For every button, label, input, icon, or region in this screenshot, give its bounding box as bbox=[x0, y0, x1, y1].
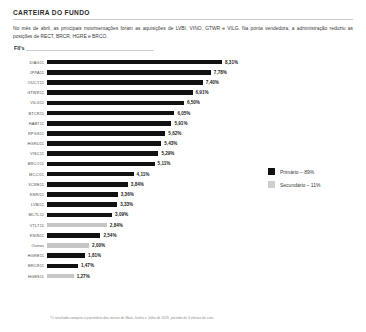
chart-bar-value: 3,09% bbox=[115, 212, 128, 217]
chart-row: LVBI113,33% bbox=[13, 200, 263, 210]
page-title: CARTEIRA DO FUNDO bbox=[13, 9, 90, 16]
chart-bar bbox=[47, 172, 134, 177]
chart-bar-value: 3,84% bbox=[131, 182, 144, 187]
chart-bar bbox=[47, 151, 158, 156]
chart-bar-area: 2,54% bbox=[47, 230, 263, 240]
chart-row-label: KNIN11 bbox=[13, 233, 47, 238]
chart-bar-area: 5,43% bbox=[47, 139, 263, 149]
chart-legend: Primário – 89% Secundário – 11% bbox=[268, 168, 356, 194]
portfolio-commentary: No mês de abril, as principais movimenta… bbox=[13, 25, 353, 41]
legend-swatch-primario bbox=[268, 168, 275, 175]
chart-bar-value: 1,27% bbox=[77, 274, 90, 279]
chart-row: VTLT112,84% bbox=[13, 220, 263, 230]
chart-bar-area: 4,11% bbox=[47, 169, 263, 179]
legend-label-secundario: Secundário – 11% bbox=[280, 182, 321, 188]
chart-bar-area: 1,81% bbox=[47, 251, 263, 261]
chart-bar bbox=[47, 243, 89, 248]
chart-bar-value: 3,36% bbox=[121, 192, 134, 197]
chart-row: VISC115,29% bbox=[13, 149, 263, 159]
chart-row: HGRU115,43% bbox=[13, 139, 263, 149]
chart-bar-area: 7,40% bbox=[47, 77, 263, 87]
chart-bar-area: 2,84% bbox=[47, 220, 263, 230]
chart-bar-area: 6,05% bbox=[47, 108, 263, 118]
chart-bar-value: 5,91% bbox=[174, 121, 187, 126]
chart-heading: FII's bbox=[14, 45, 24, 51]
chart-bar-value: 6,50% bbox=[187, 100, 200, 105]
chart-bar-value: 4,11% bbox=[137, 172, 150, 177]
chart-bar bbox=[47, 101, 184, 106]
chart-bar-value: 6,91% bbox=[196, 90, 209, 95]
chart-row: MCTL113,09% bbox=[13, 210, 263, 220]
report-page: CARTEIRA DO FUNDO No mês de abril, as pr… bbox=[0, 0, 366, 332]
chart-heading-divider bbox=[26, 50, 154, 51]
chart-bar-value: 1,47% bbox=[81, 263, 94, 268]
chart-bar-area: 5,91% bbox=[47, 118, 263, 128]
chart-row: JPPA117,78% bbox=[13, 67, 263, 77]
chart-row-label: VTLT11 bbox=[13, 223, 47, 228]
footnote: *O resultado computa o patrimônio dos me… bbox=[50, 316, 330, 321]
chart-row: HGBS111,27% bbox=[13, 271, 263, 281]
chart-bar bbox=[47, 60, 222, 65]
chart-bar-area: 3,09% bbox=[47, 210, 263, 220]
chart-row: BRCO115,11% bbox=[13, 159, 263, 169]
chart-row-label: Outros bbox=[13, 243, 47, 248]
chart-bar-area: 3,33% bbox=[47, 200, 263, 210]
legend-item-secundario: Secundário – 11% bbox=[268, 181, 356, 188]
chart-row-label: JPPA11 bbox=[13, 70, 47, 75]
chart-bar bbox=[47, 182, 128, 187]
chart-bar-area: 5,29% bbox=[47, 149, 263, 159]
chart-bar-area: 8,31% bbox=[47, 57, 263, 67]
chart-bar bbox=[47, 162, 155, 167]
chart-bar bbox=[47, 253, 85, 258]
chart-row-label: HABT11 bbox=[13, 121, 47, 126]
chart-bar-value: 3,33% bbox=[120, 202, 133, 207]
legend-label-primario: Primário – 89% bbox=[280, 169, 314, 175]
legend-item-primario: Primário – 89% bbox=[268, 168, 356, 175]
chart-row: OUCY117,40% bbox=[13, 77, 263, 87]
chart-row: VILG116,50% bbox=[13, 98, 263, 108]
chart-bar bbox=[47, 80, 203, 85]
chart-bar bbox=[47, 233, 100, 238]
chart-row: RPGS115,62% bbox=[13, 128, 263, 138]
chart-bar-value: 7,78% bbox=[214, 70, 227, 75]
chart-bar bbox=[47, 264, 78, 269]
chart-bar-value: 2,84% bbox=[110, 223, 123, 228]
chart-row-label: HGRE11 bbox=[13, 253, 47, 258]
chart-row-label: HGBS11 bbox=[13, 274, 47, 279]
chart-row-label: OUCY11 bbox=[13, 80, 47, 85]
chart-bar-value: 5,29% bbox=[161, 151, 174, 156]
chart-row-label: KNRI11 bbox=[13, 192, 47, 197]
chart-row-label: RPGS11 bbox=[13, 131, 47, 136]
chart-bar bbox=[47, 90, 193, 95]
chart-row: BTCR116,05% bbox=[13, 108, 263, 118]
chart-bar bbox=[47, 111, 174, 116]
chart-bar bbox=[47, 213, 112, 218]
chart-bar-value: 5,43% bbox=[164, 141, 177, 146]
chart-row-label: LVBI11 bbox=[13, 202, 47, 207]
chart-row: HABT115,91% bbox=[13, 118, 263, 128]
chart-row-label: VISC11 bbox=[13, 151, 47, 156]
chart-bar bbox=[47, 131, 165, 136]
chart-row-label: DIAG11 bbox=[13, 60, 47, 65]
chart-row: Outros2,00% bbox=[13, 240, 263, 250]
fii-allocation-chart: DIAG118,31%JPPA117,78%OUCY117,40%GTWR116… bbox=[13, 57, 263, 312]
chart-row-label: MCTL11 bbox=[13, 212, 47, 217]
chart-bar bbox=[47, 274, 74, 279]
chart-row-label: GTWR11 bbox=[13, 90, 47, 95]
chart-bar-value: 2,00% bbox=[92, 243, 105, 248]
chart-bar-value: 1,81% bbox=[88, 253, 101, 258]
chart-bar-area: 5,62% bbox=[47, 128, 263, 138]
chart-row: HGRE111,81% bbox=[13, 251, 263, 261]
chart-bar bbox=[47, 70, 211, 75]
chart-bar-area: 6,50% bbox=[47, 98, 263, 108]
chart-row-label: XCRE11 bbox=[13, 182, 47, 187]
chart-bar bbox=[47, 223, 107, 228]
chart-bar-area: 7,78% bbox=[47, 67, 263, 77]
chart-bar bbox=[47, 202, 117, 207]
chart-bar-value: 5,11% bbox=[158, 161, 171, 166]
chart-row: BRCR111,47% bbox=[13, 261, 263, 271]
chart-row-label: BRCO11 bbox=[13, 161, 47, 166]
chart-bar-area: 6,91% bbox=[47, 88, 263, 98]
chart-bar-area: 1,27% bbox=[47, 271, 263, 281]
chart-bar bbox=[47, 192, 118, 197]
